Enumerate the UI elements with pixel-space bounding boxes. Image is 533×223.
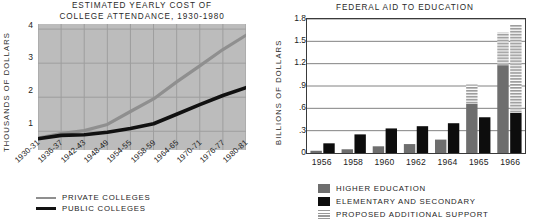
- left-chart-title-line1: ESTIMATED YEARLY COST OF: [72, 1, 212, 10]
- right-chart-title: FEDERAL AID TO EDUCATION: [290, 3, 520, 14]
- right-plot-area: [306, 18, 526, 154]
- right-y-tick-1-5: 1.5: [284, 35, 306, 45]
- left-plot-svg: [38, 24, 246, 150]
- bar-elementary-secondary-1964: [448, 123, 459, 153]
- left-plot-area: [38, 24, 246, 150]
- bar-proposed-support-higher-1965: [466, 85, 477, 104]
- legend-item-proposed-support: PROPOSED ADDITIONAL SUPPORT: [318, 208, 488, 221]
- right-x-tick-1964: 1964: [432, 157, 463, 167]
- right-y-tick-0-9: .9: [284, 80, 306, 90]
- left-chart-title: ESTIMATED YEARLY COST OFCOLLEGE ATTENDAN…: [38, 1, 246, 22]
- left-y-tick-2: 2: [18, 85, 33, 95]
- left-chart-legend: PRIVATE COLLEGES PUBLIC COLLEGES: [36, 192, 150, 214]
- figure-root: ESTIMATED YEARLY COST OFCOLLEGE ATTENDAN…: [0, 0, 533, 223]
- bar-higher-education-1960: [373, 146, 384, 153]
- legend-item-private-colleges: PRIVATE COLLEGES: [36, 192, 150, 203]
- legend-label-higher-education: HIGHER EDUCATION: [336, 184, 426, 193]
- proposed-support-swatch-icon: [318, 210, 330, 219]
- legend-label-private-colleges: PRIVATE COLLEGES: [62, 193, 150, 202]
- right-y-tick-0-6: .6: [284, 102, 306, 112]
- right-y-tick-0-3: .3: [284, 125, 306, 135]
- right-x-tick-1958: 1958: [337, 157, 368, 167]
- right-x-tick-1965: 1965: [463, 157, 494, 167]
- right-y-tick-1-8: 1.8: [284, 13, 306, 23]
- bar-higher-education-1962: [404, 144, 415, 153]
- right-x-tick-1966: 1966: [495, 157, 526, 167]
- legend-item-elementary-secondary: ELEMENTARY AND SECONDARY: [318, 195, 488, 208]
- bar-higher-education-1956: [310, 151, 321, 153]
- left-y-tick-3: 3: [18, 52, 33, 62]
- bar-elementary-secondary-1966: [510, 113, 521, 153]
- legend-item-public-colleges: PUBLIC COLLEGES: [36, 203, 150, 214]
- right-chart-legend: HIGHER EDUCATION ELEMENTARY AND SECONDAR…: [318, 182, 488, 221]
- right-y-axis-label: BILLIONS OF DOLLARS: [274, 26, 283, 158]
- left-x-tick-1930-31: 1930-31: [13, 138, 41, 165]
- left-y-tick-4: 4: [18, 20, 33, 30]
- right-x-tick-1956: 1956: [306, 157, 337, 167]
- right-gridlines: [307, 19, 525, 131]
- bar-proposed-support-higher-1966: [497, 32, 508, 65]
- left-y-tick-1: 1: [18, 118, 33, 128]
- right-x-axis-ticks: 1956195819601962196419651966: [306, 157, 526, 171]
- private-colleges-swatch-icon: [36, 197, 56, 199]
- bar-higher-education-1958: [342, 149, 353, 153]
- legend-label-public-colleges: PUBLIC COLLEGES: [62, 204, 146, 213]
- left-y-axis-label: THOUSANDS OF DOLLARS: [2, 28, 11, 156]
- line-chart-panel: ESTIMATED YEARLY COST OFCOLLEGE ATTENDAN…: [0, 0, 268, 223]
- bar-group: [310, 25, 521, 153]
- bar-elementary-secondary-1960: [386, 128, 397, 153]
- bar-elementary-secondary-1962: [417, 126, 428, 153]
- right-y-tick-1-2: 1.2: [284, 57, 306, 67]
- elementary-secondary-swatch-icon: [318, 197, 330, 206]
- right-x-tick-1962: 1962: [400, 157, 431, 167]
- private-colleges-line: [38, 35, 246, 138]
- right-x-tick-1960: 1960: [369, 157, 400, 167]
- left-chart-title-line2: COLLEGE ATTENDANCE, 1930-1980: [59, 12, 224, 21]
- right-y-tick-0: 0: [284, 147, 306, 157]
- bar-elementary-secondary-1965: [479, 117, 490, 153]
- bar-higher-education-1965: [466, 104, 477, 153]
- legend-label-proposed-support: PROPOSED ADDITIONAL SUPPORT: [336, 210, 488, 219]
- bar-proposed-support-elementary-1966: [510, 25, 521, 113]
- bar-elementary-secondary-1958: [354, 134, 365, 153]
- higher-education-swatch-icon: [318, 184, 330, 193]
- bar-higher-education-1964: [435, 140, 446, 153]
- left-x-axis-ticks: 1930-311936-371942-431948-491954-551958-…: [0, 152, 268, 196]
- legend-label-elementary-secondary: ELEMENTARY AND SECONDARY: [336, 197, 476, 206]
- right-plot-svg: [307, 19, 525, 153]
- public-colleges-swatch-icon: [36, 207, 56, 210]
- legend-item-higher-education: HIGHER EDUCATION: [318, 182, 488, 195]
- bar-higher-education-1966: [497, 65, 508, 153]
- bar-elementary-secondary-1956: [323, 143, 334, 153]
